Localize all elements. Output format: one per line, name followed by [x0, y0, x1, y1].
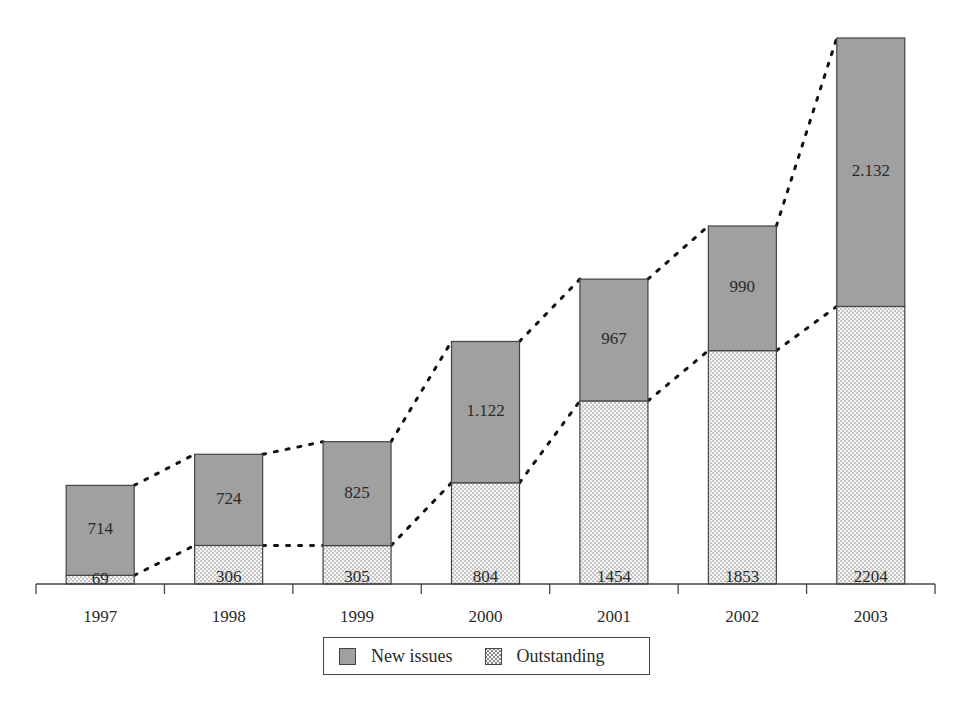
stacked-bar-chart: 697143067243058258041.122145496718539902… [0, 0, 969, 705]
outstanding-value-label: 2204 [854, 567, 889, 586]
outstanding-value-label: 69 [92, 569, 109, 588]
new-issues-value-label: 714 [87, 519, 113, 538]
connector-line [648, 226, 708, 279]
bar-2002: 1853990 [708, 226, 776, 586]
outstanding-value-label: 305 [344, 567, 370, 586]
x-tick-label-2000: 2000 [469, 607, 503, 626]
bar-1998: 306724 [195, 454, 263, 586]
legend-label-new-issues: New issues [371, 646, 453, 667]
outstanding-segment [837, 306, 905, 584]
x-tick-label-2001: 2001 [597, 607, 631, 626]
connector-line [776, 38, 836, 226]
outstanding-segment [708, 351, 776, 584]
outstanding-value-label: 1853 [725, 567, 759, 586]
outstanding-value-label: 804 [473, 567, 499, 586]
connector-line [263, 442, 323, 455]
x-tick-label-1998: 1998 [212, 607, 246, 626]
connector-line [391, 483, 451, 546]
outstanding-segment [580, 401, 648, 584]
new-issues-value-label: 825 [344, 483, 370, 502]
connector-line [520, 279, 580, 341]
legend-item-outstanding: Outstanding [485, 646, 605, 667]
connector-line [520, 401, 580, 483]
x-tick-label-1999: 1999 [340, 607, 374, 626]
legend-item-new-issues: New issues [339, 646, 453, 667]
new-issues-value-label: 1.122 [466, 401, 504, 420]
x-tick-label-2003: 2003 [854, 607, 888, 626]
outstanding-value-label: 1454 [597, 567, 632, 586]
new-issues-value-label: 967 [601, 329, 627, 348]
bar-2001: 1454967 [580, 279, 648, 586]
new-issues-value-label: 2.132 [852, 161, 890, 180]
new-issues-value-label: 724 [216, 489, 242, 508]
connector-line [134, 545, 194, 575]
connector-line [391, 341, 451, 441]
legend-label-outstanding: Outstanding [517, 646, 605, 667]
outstanding-swatch-icon [485, 648, 502, 665]
legend: New issues Outstanding [323, 637, 650, 675]
x-axis: 1997199819992000200120022003 [36, 584, 935, 626]
bar-1999: 305825 [323, 442, 391, 586]
x-tick-label-1997: 1997 [83, 607, 118, 626]
new-issues-value-label: 990 [730, 277, 756, 296]
x-tick-label-2002: 2002 [725, 607, 759, 626]
bars-group: 697143067243058258041.122145496718539902… [66, 38, 905, 588]
new-issues-swatch-icon [339, 648, 356, 665]
connector-line [776, 306, 836, 350]
connector-line [648, 351, 708, 401]
connector-line [134, 454, 194, 485]
bar-2000: 8041.122 [452, 341, 520, 585]
outstanding-value-label: 306 [216, 567, 242, 586]
bar-1997: 69714 [66, 485, 134, 587]
bar-2003: 22042.132 [837, 38, 905, 586]
